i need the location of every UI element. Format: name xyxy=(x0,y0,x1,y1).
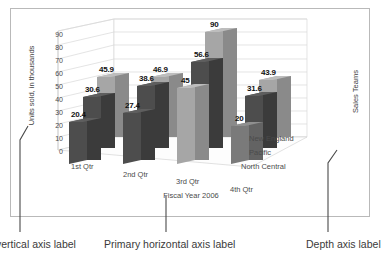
data-label-q1-front: 20.4 xyxy=(71,110,86,119)
chart-frame[interactable]: 90 80 70 60 50 40 30 20 10 0 Units sold,… xyxy=(10,8,370,217)
data-label-q3-front: 45 xyxy=(181,76,190,85)
data-label-q3-back: 90 xyxy=(210,20,219,29)
z-label-pacific: Pacific xyxy=(249,148,271,157)
plot-area: 90 80 70 60 50 40 30 20 10 0 Units sold,… xyxy=(11,9,371,218)
bar-north-central-q3 xyxy=(177,84,209,164)
x-label-2nd-qtr: 2nd Qtr xyxy=(123,170,148,179)
y-tick-40: 40 xyxy=(55,96,63,103)
data-label-q4-mid: 31.6 xyxy=(247,84,262,93)
data-label-q2-front: 27.4 xyxy=(125,101,140,110)
data-label-q1-mid: 30.6 xyxy=(85,85,100,94)
y-axis-title: Units sold, in thousands xyxy=(27,42,36,130)
x-label-1st-qtr: 1st Qtr xyxy=(71,162,94,171)
annotation-depth-axis-label: Depth axis label xyxy=(306,238,381,250)
x-label-3rd-qtr: 3rd Qtr xyxy=(176,177,199,186)
chart-3d-canvas xyxy=(11,9,371,218)
screenshot-root: 90 80 70 60 50 40 30 20 10 0 Units sold,… xyxy=(0,0,382,254)
bar-north-central-q4 xyxy=(231,122,263,164)
y-tick-50: 50 xyxy=(55,83,63,90)
y-tick-60: 60 xyxy=(55,70,63,77)
data-label-q4-front: 20 xyxy=(235,114,244,123)
data-label-q1-back: 45.9 xyxy=(99,65,114,74)
y-axis-ticks: 90 80 70 60 50 40 30 20 10 0 xyxy=(41,31,63,157)
z-axis-title: Sales Teams xyxy=(351,57,360,127)
chart-bottom-title: Fiscal Year 2006 xyxy=(11,191,371,200)
annotation-horizontal-axis-label: Primary horizontal axis label xyxy=(104,238,235,250)
bar-north-central-q1 xyxy=(69,118,101,164)
y-tick-80: 80 xyxy=(55,44,63,51)
y-tick-30: 30 xyxy=(55,109,63,116)
data-label-q4-back: 43.9 xyxy=(261,68,276,77)
z-label-new-england: New England xyxy=(249,134,294,143)
data-label-q2-back: 46.9 xyxy=(153,65,168,74)
bar-north-central-q2 xyxy=(123,109,155,164)
y-tick-10: 10 xyxy=(55,135,63,142)
y-tick-0: 0 xyxy=(59,148,63,155)
data-label-q3-mid: 56.6 xyxy=(194,50,209,59)
annotation-vertical-axis-label: vertical axis label xyxy=(0,238,76,250)
y-tick-90: 90 xyxy=(55,31,63,38)
data-label-q2-mid: 38.6 xyxy=(139,74,154,83)
z-label-north-central: North Central xyxy=(241,162,286,171)
y-tick-20: 20 xyxy=(55,122,63,129)
y-tick-70: 70 xyxy=(55,57,63,64)
